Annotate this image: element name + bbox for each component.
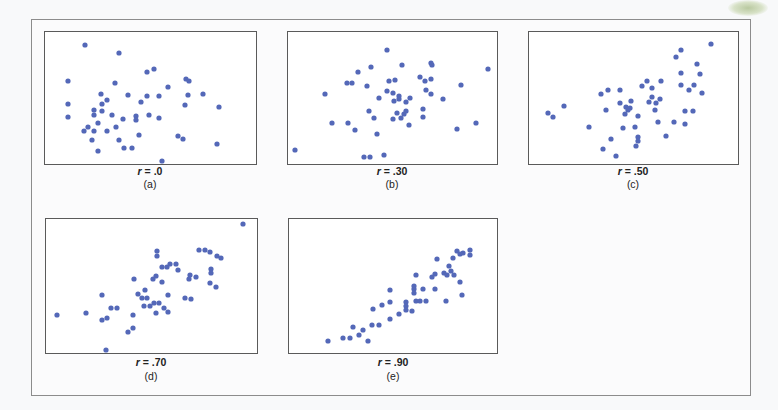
data-point [485, 66, 490, 71]
data-point [467, 247, 472, 252]
decorative-smudge [728, 0, 768, 16]
data-point [371, 115, 376, 120]
data-point [384, 88, 389, 93]
data-point [340, 335, 345, 340]
caption-b: (b) [342, 178, 442, 190]
data-point [376, 322, 381, 327]
data-point [131, 276, 136, 281]
data-point [598, 91, 603, 96]
data-point [644, 78, 649, 83]
data-point [420, 114, 425, 119]
data-point [403, 108, 408, 113]
data-point [200, 91, 205, 96]
data-point [98, 91, 103, 96]
data-point [392, 77, 397, 82]
data-point [186, 276, 191, 281]
data-point [639, 83, 644, 88]
data-point [379, 302, 384, 307]
r-label-b: r = .30 [342, 165, 442, 177]
data-point [352, 127, 357, 132]
scatter-panel-e [288, 218, 498, 354]
scatter-panel-a [44, 31, 257, 165]
data-point [91, 112, 96, 117]
data-point [403, 307, 408, 312]
data-point [141, 303, 146, 308]
data-point [104, 315, 109, 320]
data-point [605, 87, 610, 92]
data-point [91, 107, 96, 112]
r-label-a: r = .0 [100, 165, 200, 177]
data-point [180, 136, 185, 141]
data-point [467, 252, 472, 257]
scatter-plot-area [44, 31, 277, 185]
data-point [218, 255, 223, 260]
data-point [154, 248, 159, 253]
data-point [360, 327, 365, 332]
data-point [561, 103, 566, 108]
data-point [133, 117, 138, 122]
data-point [214, 141, 219, 146]
data-point [620, 125, 625, 130]
data-point [347, 335, 352, 340]
data-point [586, 124, 591, 129]
data-point [682, 108, 687, 113]
data-point [186, 78, 191, 83]
data-point [175, 267, 180, 272]
data-point [440, 96, 445, 101]
data-point [125, 329, 130, 334]
data-point [649, 85, 654, 90]
data-point [65, 101, 70, 106]
data-point [54, 312, 59, 317]
caption-a: (a) [100, 178, 200, 190]
data-point [103, 347, 108, 352]
data-point [153, 273, 158, 278]
data-point [646, 99, 651, 104]
data-point [394, 110, 399, 115]
data-point [428, 76, 433, 81]
scatter-panel-d [45, 218, 258, 354]
data-point [411, 290, 416, 295]
data-point [366, 108, 371, 113]
data-point [603, 107, 608, 112]
r-value: = .30 [381, 165, 408, 177]
data-point [121, 145, 126, 150]
data-point [95, 148, 100, 153]
data-point [99, 101, 104, 106]
data-point [185, 92, 190, 97]
data-point [396, 96, 401, 101]
data-point [390, 116, 395, 121]
data-point [114, 305, 119, 310]
data-point [81, 128, 86, 133]
data-point [450, 255, 455, 260]
data-point [617, 87, 622, 92]
data-point [147, 303, 152, 308]
data-point [370, 306, 375, 311]
data-point [428, 91, 433, 96]
data-point [213, 284, 218, 289]
data-point [550, 114, 555, 119]
data-point [655, 119, 660, 124]
data-point [156, 115, 161, 120]
data-point [125, 92, 130, 97]
data-point [130, 325, 135, 330]
data-point [409, 308, 414, 313]
data-point [202, 247, 207, 252]
data-point [699, 90, 704, 95]
scatter-plot-area [288, 218, 518, 374]
data-point [635, 138, 640, 143]
data-point [154, 253, 159, 258]
data-point [545, 110, 550, 115]
data-point [374, 131, 379, 136]
scatter-plot-area [528, 31, 759, 185]
data-point [690, 108, 695, 113]
data-point [182, 295, 187, 300]
data-point [384, 47, 389, 52]
data-point [399, 62, 404, 67]
data-point [89, 137, 94, 142]
data-point [407, 95, 412, 100]
data-point [367, 154, 372, 159]
scatter-panel-b [287, 31, 498, 165]
data-point [423, 87, 428, 92]
data-point [622, 111, 627, 116]
scatter-panel-c [528, 31, 739, 165]
